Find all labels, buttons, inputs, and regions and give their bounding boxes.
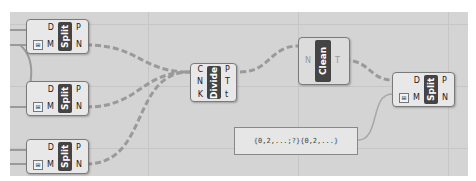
clean-component[interactable]: N Clean T — [298, 37, 350, 85]
output-n[interactable]: N — [76, 102, 82, 112]
divide-component[interactable]: C N K Divide P T t — [190, 63, 237, 102]
input-d[interactable]: D — [48, 85, 54, 95]
input-m[interactable]: ⊞M — [33, 160, 54, 170]
input-d[interactable]: D — [414, 76, 420, 86]
output-t[interactable]: T — [225, 77, 230, 87]
input-d[interactable]: D — [48, 143, 54, 153]
mask-toggle-icon[interactable]: ⊞ — [33, 102, 43, 112]
output-n[interactable]: N — [76, 40, 82, 50]
output-p[interactable]: P — [76, 143, 81, 153]
panel-text: {0,2,...;?}{0,2,...} — [254, 137, 338, 145]
split-component-4[interactable]: D ⊞M Split P N — [392, 72, 455, 107]
input-c[interactable]: C — [197, 65, 203, 75]
output-p[interactable]: P — [76, 23, 81, 33]
mask-toggle-icon[interactable]: ⊞ — [33, 160, 43, 170]
input-d[interactable]: D — [48, 23, 54, 33]
input-m[interactable]: ⊞M — [399, 93, 420, 103]
output-p[interactable]: P — [442, 76, 447, 86]
input-n[interactable]: N — [197, 77, 203, 87]
input-2[interactable]: N — [305, 56, 311, 66]
component-name: Divide — [207, 66, 221, 99]
component-name: Split — [58, 142, 72, 171]
output-t-param[interactable]: t — [225, 90, 228, 100]
mask-toggle-icon[interactable]: ⊞ — [33, 40, 43, 50]
component-name: Split — [58, 22, 72, 51]
input-3[interactable] — [308, 71, 311, 81]
text-panel[interactable]: {0,2,...;?}{0,2,...} — [234, 127, 358, 155]
output-p[interactable]: P — [225, 65, 230, 75]
output-n[interactable]: N — [76, 160, 82, 170]
input-m[interactable]: ⊞M — [33, 40, 54, 50]
output-t[interactable]: T — [335, 56, 340, 66]
mask-toggle-icon[interactable]: ⊞ — [399, 93, 409, 103]
input-m[interactable]: ⊞M — [33, 102, 54, 112]
split-component-3[interactable]: D ⊞M Split P N — [26, 139, 89, 174]
component-name: Clean — [315, 40, 331, 82]
output-n[interactable]: N — [442, 93, 448, 103]
component-name: Split — [424, 75, 438, 104]
split-component-2[interactable]: D ⊞M Split P N — [26, 81, 89, 116]
input-k[interactable]: K — [198, 90, 203, 100]
split-component-1[interactable]: D ⊞M Split P N — [26, 19, 89, 54]
output-p[interactable]: P — [76, 85, 81, 95]
component-name: Split — [58, 84, 72, 113]
input-1[interactable] — [308, 41, 311, 51]
